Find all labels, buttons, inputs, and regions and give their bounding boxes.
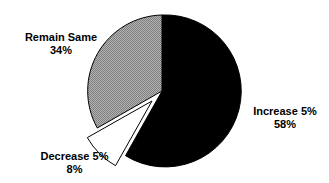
pie-label-increase-text: Increase 5% <box>248 105 322 118</box>
pie-label-increase-value: 58% <box>248 118 322 131</box>
pie-label-increase: Increase 5% 58% <box>248 105 322 131</box>
pie-label-decrease-text: Decrease 5% <box>33 150 116 163</box>
pie-chart: Remain Same 34% Increase 5% 58% Decrease… <box>0 0 329 183</box>
pie-label-decrease: Decrease 5% 8% <box>33 150 116 176</box>
pie-label-remain-same-text: Remain Same <box>14 31 108 44</box>
pie-label-remain-same: Remain Same 34% <box>14 31 108 57</box>
pie-label-remain-same-value: 34% <box>14 44 108 57</box>
pie-label-decrease-value: 8% <box>33 163 116 176</box>
